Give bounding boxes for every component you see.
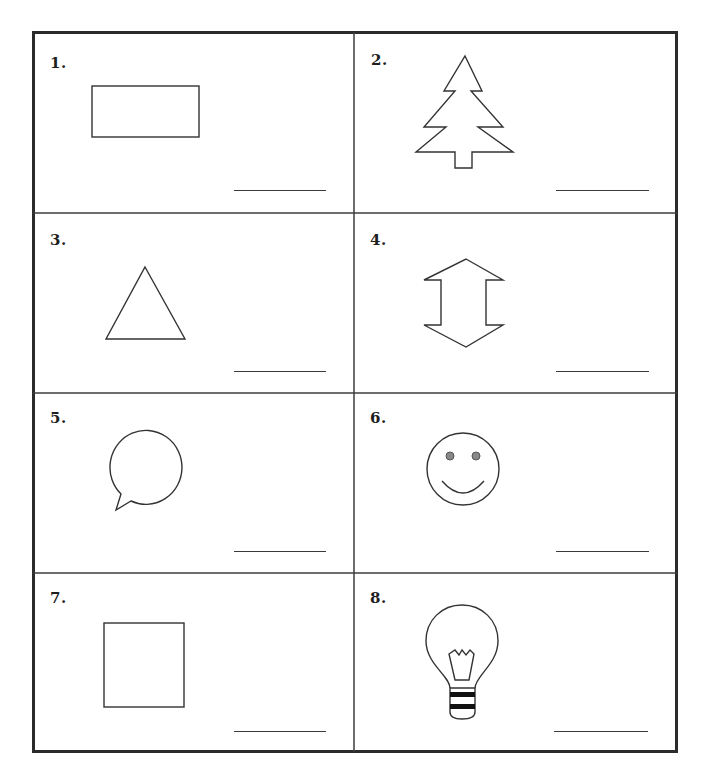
question-number: 2. xyxy=(371,51,388,69)
question-number: 5. xyxy=(50,409,67,427)
answer-line-8[interactable] xyxy=(554,731,648,732)
question-number: 7. xyxy=(50,589,67,607)
question-cell-8: 8. xyxy=(354,573,675,750)
question-cell-2: 2. xyxy=(354,34,675,213)
question-number: 1. xyxy=(50,54,67,72)
question-number: 8. xyxy=(370,589,387,607)
answer-line-3[interactable] xyxy=(234,371,326,372)
question-cell-6: 6. xyxy=(354,393,675,573)
answer-line-2[interactable] xyxy=(556,190,649,191)
answer-line-7[interactable] xyxy=(234,731,326,732)
answer-line-6[interactable] xyxy=(556,551,649,552)
question-cell-1: 1. xyxy=(35,34,354,213)
answer-line-1[interactable] xyxy=(234,190,326,191)
question-cell-7: 7. xyxy=(35,573,354,750)
answer-line-5[interactable] xyxy=(234,551,326,552)
question-number: 4. xyxy=(370,231,387,249)
question-number: 3. xyxy=(50,231,67,249)
worksheet: 1. 2. 3. 4. 5. 6. 7. 8. xyxy=(0,0,705,783)
question-number: 6. xyxy=(370,409,387,427)
question-cell-5: 5. xyxy=(35,393,354,573)
question-cell-3: 3. xyxy=(35,213,354,393)
answer-line-4[interactable] xyxy=(556,371,649,372)
question-cell-4: 4. xyxy=(354,213,675,393)
